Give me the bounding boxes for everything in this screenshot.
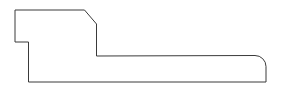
- profile-outline-svg: [0, 0, 281, 94]
- molding-profile-outline-path: [15, 10, 266, 82]
- drawing-canvas: [0, 0, 281, 94]
